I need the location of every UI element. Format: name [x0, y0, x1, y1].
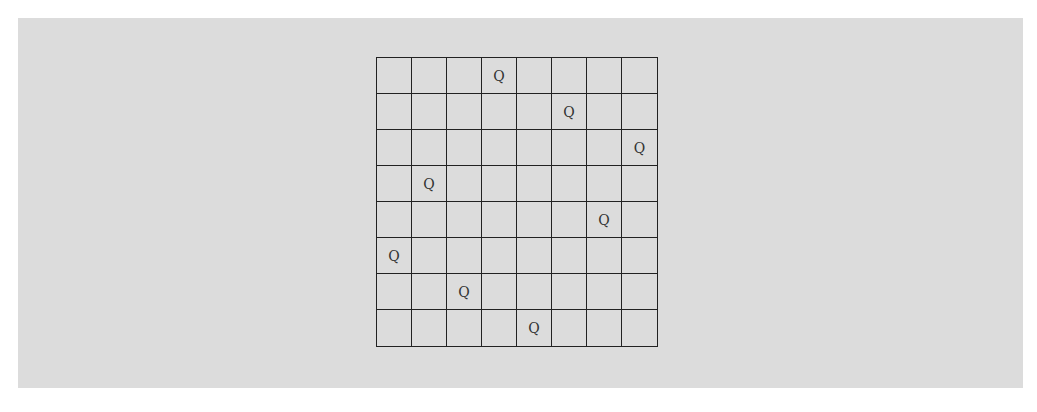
board-cell [622, 238, 657, 274]
board-cell [587, 58, 622, 94]
board-cell [552, 310, 587, 346]
queen-icon: Q [423, 176, 434, 192]
board-cell: Q [377, 238, 412, 274]
board-cell [622, 94, 657, 130]
board-cell: Q [412, 166, 447, 202]
board-cell [377, 130, 412, 166]
board-cell [447, 94, 482, 130]
board-cell [587, 310, 622, 346]
queen-icon: Q [598, 212, 609, 228]
board-cell [517, 58, 552, 94]
board-cell [587, 274, 622, 310]
board-cell [622, 274, 657, 310]
board-cell [517, 202, 552, 238]
board-cell [482, 130, 517, 166]
board-cell [377, 202, 412, 238]
board-cell [412, 274, 447, 310]
board-cell [482, 238, 517, 274]
board-cell [517, 166, 552, 202]
board-cell [412, 130, 447, 166]
board-cell [552, 274, 587, 310]
board-cell: Q [552, 94, 587, 130]
chess-board: QQQQQQQQ [376, 57, 658, 347]
board-cell: Q [587, 202, 622, 238]
board-cell [482, 202, 517, 238]
board-cell [552, 202, 587, 238]
board-cell [377, 58, 412, 94]
board-cell [517, 274, 552, 310]
board-cell [412, 58, 447, 94]
board-cell [482, 310, 517, 346]
board-cell [482, 274, 517, 310]
board-cell [377, 166, 412, 202]
board-cell [622, 58, 657, 94]
queen-icon: Q [388, 248, 399, 264]
board-cell [412, 202, 447, 238]
board-cell [517, 130, 552, 166]
board-cell [587, 94, 622, 130]
board-cell [377, 274, 412, 310]
board-cell [377, 310, 412, 346]
board-cell [412, 94, 447, 130]
board-cell [622, 310, 657, 346]
board-cell [517, 94, 552, 130]
board-cell [587, 238, 622, 274]
board-cell [482, 94, 517, 130]
board-cell [622, 166, 657, 202]
board-cell [482, 166, 517, 202]
board-cell [552, 238, 587, 274]
board-cell: Q [517, 310, 552, 346]
queen-icon: Q [458, 284, 469, 300]
board-cell [447, 202, 482, 238]
board-cell: Q [622, 130, 657, 166]
board-cell [587, 166, 622, 202]
board-cell [447, 238, 482, 274]
board-cell [447, 58, 482, 94]
board-cell [552, 130, 587, 166]
queen-icon: Q [634, 140, 645, 156]
queen-icon: Q [528, 320, 539, 336]
board-cell [552, 58, 587, 94]
queen-icon: Q [563, 104, 574, 120]
board-cell [447, 310, 482, 346]
board-cell [447, 166, 482, 202]
board-cell [412, 238, 447, 274]
board-cell [412, 310, 447, 346]
board-cell [552, 166, 587, 202]
board-cell: Q [447, 274, 482, 310]
board-cell [622, 202, 657, 238]
board-cell [587, 130, 622, 166]
board-cell: Q [482, 58, 517, 94]
queen-icon: Q [493, 68, 504, 84]
board-cell [517, 238, 552, 274]
board-cell [447, 130, 482, 166]
board-cell [377, 94, 412, 130]
